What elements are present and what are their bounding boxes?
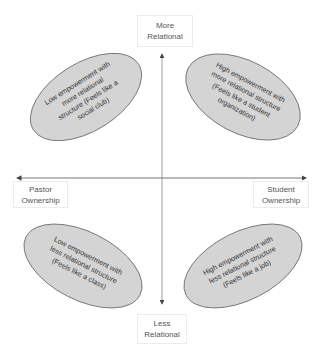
axis-label-top: More Relational	[137, 15, 193, 47]
axis-label-right: Student Ownership	[253, 181, 309, 208]
axis-label-bottom: Less Relational	[137, 314, 187, 344]
quadrant-diagram	[0, 0, 323, 358]
axis-label-left: Pastor Ownership	[13, 181, 68, 208]
